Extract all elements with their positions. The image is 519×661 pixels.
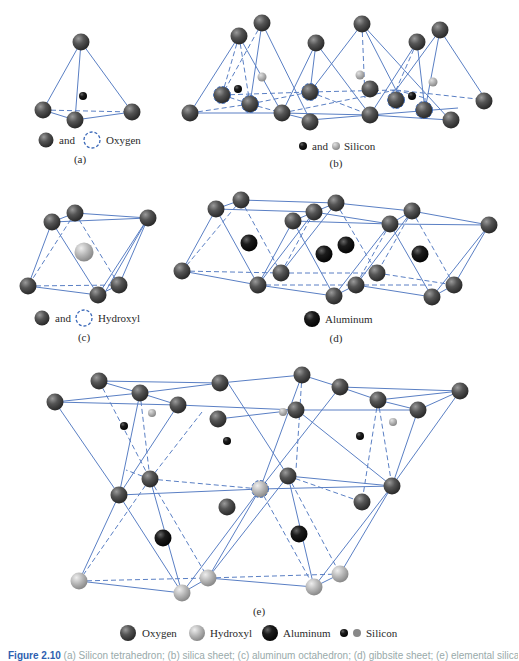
silicon-light-atom: [429, 78, 438, 87]
panel-a-atoms: [35, 34, 141, 129]
key-silicon-text: Silicon: [366, 627, 398, 639]
legend-silicon-text: Silicon: [344, 140, 376, 152]
aluminum-atom: [155, 530, 172, 547]
hydroxyl-atom: [332, 566, 349, 583]
panel-d-legend: Aluminum (d): [304, 311, 373, 345]
oxygen-sphere-icon: [35, 311, 50, 326]
panel-b-legend: and Silicon (b): [299, 140, 376, 170]
silicon-light-atom: [389, 418, 397, 426]
silicate-structure-figure: and Oxygen (a): [0, 0, 519, 661]
key-hydroxyl-text: Hydroxyl: [210, 627, 252, 639]
caption-text: (a) Silicon tetrahedron; (b) silica shee…: [64, 650, 518, 661]
oxygen-atom: [35, 102, 52, 119]
hydroxyl-atom-shared: [252, 481, 269, 498]
aluminum-atom: [316, 246, 333, 263]
silicon-light-icon: [332, 142, 340, 150]
aluminum-sphere-icon: [304, 311, 320, 327]
aluminum-key-icon: [262, 625, 278, 641]
oxygen-atom: [124, 104, 141, 121]
hydroxyl-atom: [174, 585, 191, 602]
aluminum-atom: [338, 237, 355, 254]
panel-a-label: (a): [74, 153, 87, 166]
hydroxyl-atom: [71, 573, 88, 590]
figure-number: Figure 2.10: [8, 650, 61, 661]
oxygen-atom: [73, 34, 90, 51]
figure-key: Oxygen Hydroxyl Aluminum Silicon: [120, 625, 398, 641]
hydroxyl-key-icon: [189, 625, 205, 641]
silicon-light-atom: [258, 73, 267, 82]
aluminum-atom: [291, 526, 308, 543]
silicon-light-key-icon: [353, 629, 361, 637]
key-oxygen-text: Oxygen: [142, 627, 177, 639]
oxygen-sphere-icon: [39, 133, 54, 148]
aluminum-atom: [412, 246, 429, 263]
silicon-dark-atom: [408, 92, 416, 100]
legend-hydroxyl-text: Hydroxyl: [98, 312, 140, 324]
panel-b-label: (b): [330, 157, 343, 170]
silicon-dark-icon: [299, 142, 307, 150]
legend-and-text: and: [312, 140, 328, 152]
key-aluminum-text: Aluminum: [283, 627, 331, 639]
panel-d-bonds: [182, 200, 489, 297]
silicon-light-atom: [279, 408, 287, 416]
aluminum-atom: [241, 235, 258, 252]
legend-and-text: and: [59, 134, 75, 146]
dashed-circle-hydroxyl-icon: [76, 310, 92, 326]
dashed-circle-oxygen-icon: [84, 132, 100, 148]
panel-a-legend: and Oxygen (a): [39, 132, 142, 166]
hydroxyl-atom: [200, 570, 217, 587]
silicon-dark-atom: [223, 437, 231, 445]
panel-c-label: (c): [78, 331, 91, 344]
panel-e-atoms: [47, 367, 469, 602]
panel-a-tetrahedron: [43, 42, 132, 120]
panel-d-atoms: [174, 192, 498, 306]
legend-oxygen-text: Oxygen: [106, 134, 141, 146]
silicon-light-atom: [356, 71, 365, 80]
silicon-light-atom: [148, 409, 156, 417]
panel-c-legend: and Hydroxyl (c): [35, 310, 141, 344]
legend-and-text: and: [55, 312, 71, 324]
hydroxyl-atom: [306, 579, 323, 596]
panel-e-label: (e): [253, 605, 266, 618]
silicon-dark-atom: [356, 432, 364, 440]
hydroxyl-atom: [75, 243, 94, 262]
silicon-dark-atom: [120, 422, 128, 430]
panel-d-label: (d): [330, 332, 343, 345]
silicon-dark-key-icon: [340, 629, 348, 637]
legend-aluminum-text: Aluminum: [325, 313, 373, 325]
silicon-atom: [79, 92, 87, 100]
oxygen-atom: [67, 112, 84, 129]
figure-caption: Figure 2.10 (a) Silicon tetrahedron; (b)…: [8, 650, 518, 661]
silicon-dark-atom: [234, 85, 242, 93]
oxygen-key-icon: [120, 625, 136, 641]
